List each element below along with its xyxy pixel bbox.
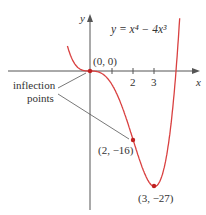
point-label-origin: (0, 0) [93,56,117,67]
x-axis-label: x [196,77,201,88]
curve [67,18,179,186]
point-label-2: (2, −16) [98,145,134,156]
x-axis-arrow-icon [192,68,200,74]
tick-label-2: 2 [130,77,136,88]
point-2-neg16 [131,138,135,142]
y-axis-label: y [80,13,85,24]
annotation-line2: points [27,93,54,104]
point-3-neg27 [152,184,156,188]
annotation-arrow-1 [58,73,86,88]
point-label-3: (3, −27) [138,193,174,204]
tick-label-3: 3 [151,77,157,88]
y-axis-arrow-icon [87,14,93,22]
annotation-arrow-2 [58,94,129,139]
point-origin [88,69,92,73]
graph [0,0,206,215]
equation-label: y = x⁴ − 4x³ [111,24,167,36]
annotation-line1: inflection [13,80,55,91]
